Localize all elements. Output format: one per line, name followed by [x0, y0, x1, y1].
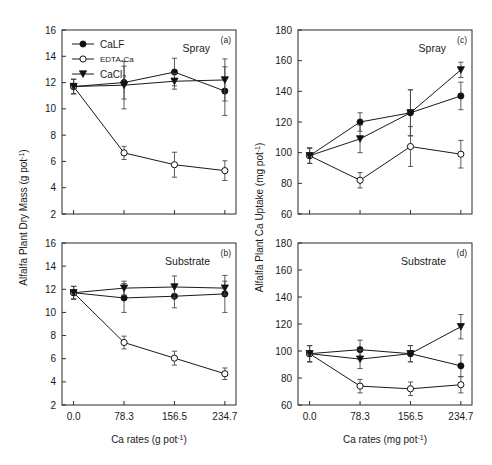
y-ticklabel-b-7: 16: [45, 238, 57, 249]
series-d-cacl2: [306, 315, 464, 369]
series-b-cacl2: [70, 276, 228, 299]
series-b-edta-ca: [71, 286, 228, 379]
legend-item-calf[interactable]: [72, 41, 94, 47]
data-line: [74, 293, 225, 298]
marker-open-circle: [357, 383, 363, 389]
y-ticklabel-a-1: 4: [50, 182, 56, 193]
marker-filled-triangle: [457, 324, 464, 331]
legend-item-cacl2[interactable]: [72, 71, 94, 78]
series-a-edta-ca: [71, 79, 228, 180]
y-ticklabel-c-6: 180: [275, 25, 292, 36]
marker-open-circle: [121, 150, 127, 156]
marker-filled-circle: [458, 93, 464, 99]
marker-open-circle: [171, 355, 177, 361]
marker-open-circle: [121, 339, 127, 345]
y-ticklabel-d-4: 140: [275, 292, 292, 303]
x-axis-title-left: Ca rates (g pot-1): [111, 434, 187, 446]
marker-open-circle: [80, 56, 86, 62]
panel-c: 6080100120140160180(c)Spray: [275, 25, 472, 220]
data-line: [310, 327, 461, 359]
marker-filled-circle: [121, 295, 127, 301]
y-ticklabel-b-3: 8: [50, 330, 56, 341]
plot-frame-b: [62, 243, 236, 405]
panel-title-d: Substrate: [401, 255, 446, 267]
series-d-calf: [307, 340, 464, 376]
data-line: [74, 80, 225, 87]
panel-label-c: (c): [457, 35, 467, 45]
marker-open-circle: [458, 382, 464, 388]
y-ticklabel-d-6: 180: [275, 238, 292, 249]
marker-open-circle: [458, 151, 464, 157]
series-a-calf: [71, 58, 228, 115]
marker-open-circle: [407, 386, 413, 392]
data-line: [74, 72, 225, 91]
y-ticklabel-c-0: 60: [281, 209, 293, 220]
series-c-cacl2: [306, 62, 464, 163]
y-ticklabel-a-4: 10: [45, 103, 57, 114]
marker-open-circle: [171, 162, 177, 168]
marker-open-circle: [222, 371, 228, 377]
series-d-edta-ca: [307, 346, 464, 396]
data-line: [74, 87, 225, 171]
legend-label-edta-ca: EDTA-Ca: [100, 55, 134, 64]
y-ticklabel-b-1: 4: [50, 376, 56, 387]
data-line: [74, 287, 225, 293]
y-ticklabel-d-1: 80: [281, 373, 293, 384]
legend-label-cacl2: CaCl2: [100, 69, 126, 82]
marker-filled-triangle: [356, 136, 363, 143]
x-ticklabel-b-1: 78.3: [114, 411, 134, 422]
y-ticklabel-b-2: 6: [50, 353, 56, 364]
y-ticklabel-c-3: 120: [275, 117, 292, 128]
y-ticklabel-b-0: 2: [50, 400, 56, 411]
x-ticklabel-d-1: 78.3: [350, 411, 370, 422]
data-line: [310, 147, 461, 181]
legend-label-calf: CaLF: [100, 39, 124, 50]
y-ticklabel-b-4: 10: [45, 307, 57, 318]
marker-filled-circle: [80, 41, 86, 47]
panel-title-c: Spray: [419, 42, 447, 54]
data-line: [310, 350, 461, 366]
y-ticklabel-a-0: 2: [50, 209, 56, 220]
data-line: [74, 293, 225, 374]
y-ticklabel-c-2: 100: [275, 147, 292, 158]
y-ticklabel-c-1: 80: [281, 178, 293, 189]
y-ticklabel-a-3: 8: [50, 130, 56, 141]
y-ticklabel-a-2: 6: [50, 156, 56, 167]
x-ticklabel-b-2: 156.5: [162, 411, 187, 422]
panel-title-a: Spray: [183, 42, 211, 54]
panel-label-b: (b): [221, 248, 232, 258]
series-c-edta-ca: [307, 127, 464, 188]
panel-label-d: (d): [457, 248, 468, 258]
data-line: [310, 70, 461, 156]
y-axis-title-right: Alfalfa Plant Ca Uptake (mg pot-1): [254, 143, 266, 293]
panel-d: 60801001201401601800.078.3156.5234.7(d)S…: [275, 238, 473, 422]
plot-frame-a: [62, 30, 236, 214]
x-ticklabel-d-3: 234.7: [448, 411, 473, 422]
panel-a: 246810121416(a)Spray: [45, 25, 236, 220]
y-ticklabel-d-2: 100: [275, 346, 292, 357]
y-ticklabel-b-6: 14: [45, 261, 57, 272]
marker-open-circle: [357, 177, 363, 183]
panel-title-b: Substrate: [165, 255, 210, 267]
y-ticklabel-b-5: 12: [45, 284, 57, 295]
legend: CaLFEDTA-CaCaCl2: [72, 39, 134, 82]
marker-open-circle: [222, 168, 228, 174]
marker-filled-circle: [357, 119, 363, 125]
plot-frame-c: [298, 30, 472, 214]
y-ticklabel-d-0: 60: [281, 400, 293, 411]
y-ticklabel-c-5: 160: [275, 55, 292, 66]
plot-frame-d: [298, 243, 472, 405]
figure-container: 246810121416(a)Spray2468101214160.078.31…: [0, 0, 492, 465]
y-ticklabel-a-6: 14: [45, 51, 57, 62]
y-ticklabel-d-3: 120: [275, 319, 292, 330]
y-ticklabel-a-5: 12: [45, 77, 57, 88]
x-ticklabel-d-0: 0.0: [303, 411, 317, 422]
data-line: [310, 354, 461, 389]
x-ticklabel-b-0: 0.0: [67, 411, 81, 422]
legend-item-edta-ca[interactable]: [72, 56, 94, 62]
panel-b: 2468101214160.078.3156.5234.7(b)Substrat…: [45, 238, 238, 422]
panel-label-a: (a): [221, 35, 232, 45]
x-ticklabel-b-3: 234.7: [212, 411, 237, 422]
x-ticklabel-d-2: 156.5: [398, 411, 423, 422]
series-b-calf: [71, 275, 228, 312]
